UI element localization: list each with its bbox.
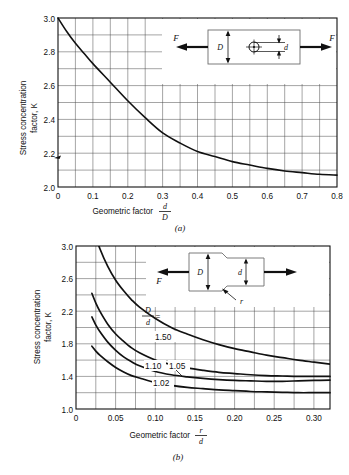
chart-b-ytick-1.0: 1.0 <box>62 406 74 415</box>
chart-b-curve-label-1.02: 1.02 <box>153 378 170 388</box>
chart-b-ytick-2.2: 2.2 <box>62 308 74 317</box>
chart-a-inset-D-label: D <box>216 43 223 52</box>
chart-b-x-axis-title-text: Geometric factor <box>129 431 190 440</box>
chart-a-xtick-0.8: 0.8 <box>331 192 343 201</box>
chart-a-x-tick-labels: 0 0.1 0.2 0.3 0.4 0.5 0.6 0.7 0.8 <box>56 192 343 201</box>
chart-a-y-axis-label-line2: factor, K <box>30 102 39 133</box>
chart-b-xtick-0: 0 <box>74 414 79 423</box>
chart-b-curve-label-1.05: 1.05 <box>169 361 186 371</box>
chart-a-xtick-0.2: 0.2 <box>122 192 134 201</box>
chart-a-caption: (a) <box>175 223 186 233</box>
chart-b-curve-label-1.50: 1.50 <box>155 332 172 342</box>
chart-b-ytick-2.6: 2.6 <box>62 275 74 284</box>
chart-a: Stress concentration factor, K 3.0 2.8 2… <box>0 0 349 235</box>
chart-b-xtick-0.25: 0.25 <box>266 414 282 423</box>
chart-b-x-tick-labels: 0 0.05 0.10 0.15 0.20 0.25 0.30 <box>74 414 323 423</box>
chart-a-inset-force-right-label: F <box>328 33 335 43</box>
chart-a-xtick-0.1: 0.1 <box>87 192 99 201</box>
chart-a-ytick-2.6: 2.6 <box>44 82 56 91</box>
chart-a-x-axis-frac-numerator: d <box>163 202 168 211</box>
chart-b-caption: (b) <box>173 452 184 462</box>
figure-container: Stress concentration factor, K 3.0 2.8 2… <box>0 0 349 475</box>
chart-b-xtick-0.20: 0.20 <box>227 414 243 423</box>
chart-a-y-tick-labels: 3.0 2.8 2.6 2.4 2.2 2.0 <box>44 15 56 193</box>
chart-a-ytick-2.0: 2.0 <box>44 184 56 193</box>
chart-a-y-axis-label: Stress concentration factor, K <box>19 80 39 155</box>
chart-a-xtick-0.6: 0.6 <box>262 192 274 201</box>
chart-b-xtick-0.10: 0.10 <box>147 414 163 423</box>
chart-b-legend-key-numerator: D <box>144 306 151 315</box>
chart-a-xtick-0.4: 0.4 <box>192 192 204 201</box>
chart-b: Stress concentration factor, K 3.0 2.6 2… <box>0 239 349 471</box>
chart-b-xtick-0.15: 0.15 <box>187 414 203 423</box>
chart-b-inset-D-label: D <box>196 268 203 277</box>
chart-a-xtick-0.3: 0.3 <box>157 192 169 201</box>
chart-b-x-axis-frac-numerator: r <box>199 426 203 435</box>
chart-b-y-tick-labels: 3.0 2.6 2.2 1.8 1.4 1.0 <box>62 243 74 415</box>
chart-a-inset-force-left-label: F <box>172 33 179 43</box>
chart-a-y-axis-label-line1: Stress concentration <box>19 80 28 155</box>
chart-a-ytick-2.4: 2.4 <box>44 116 56 125</box>
chart-a-x-axis-title-text: Geometric factor <box>92 207 153 216</box>
chart-b-curve-label-1.10: 1.10 <box>145 361 162 371</box>
chart-b-y-axis-label-line1: Stress concentration <box>33 289 42 364</box>
chart-a-xtick-0.7: 0.7 <box>296 192 308 201</box>
chart-a-xtick-0: 0 <box>56 192 61 201</box>
chart-b-ytick-1.8: 1.8 <box>62 340 74 349</box>
chart-b-y-axis-label-line2: factor, K <box>44 311 53 342</box>
chart-b-ytick-3.0: 3.0 <box>62 243 74 252</box>
chart-b-xtick-0.30: 0.30 <box>306 414 322 423</box>
chart-b-inset-force-left-label: F <box>155 276 162 286</box>
chart-a-ytick-2.8: 2.8 <box>44 48 56 57</box>
chart-a-x-axis-frac-denominator: D <box>161 213 168 222</box>
chart-b-x-axis-frac-denominator: d <box>199 437 204 446</box>
chart-b-legend-key-equals: = <box>156 312 161 321</box>
chart-b-x-axis-title: Geometric factor r d <box>129 426 207 446</box>
chart-a-ytick-3.0: 3.0 <box>44 15 56 24</box>
chart-a-x-axis-title: Geometric factor d D <box>92 202 171 222</box>
chart-a-xtick-0.5: 0.5 <box>227 192 239 201</box>
chart-b-ytick-1.4: 1.4 <box>62 373 74 382</box>
chart-a-ytick-2.2: 2.2 <box>44 150 56 159</box>
chart-b-y-axis-label: Stress concentration factor, K <box>33 289 53 364</box>
chart-b-xtick-0.05: 0.05 <box>108 414 124 423</box>
